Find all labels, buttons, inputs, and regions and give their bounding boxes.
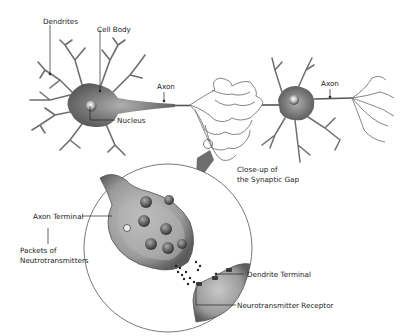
right-axon-terminals bbox=[352, 76, 394, 142]
axon-terminal-branches bbox=[190, 78, 263, 160]
label-dendrites: Dendrites bbox=[43, 17, 78, 26]
label-packets-line2: Neutrotransmitters bbox=[20, 256, 89, 265]
label-dendrite-terminal: Dendrite Terminal bbox=[247, 270, 311, 279]
label-nucleus: Nucleus bbox=[117, 116, 146, 125]
right-axon bbox=[314, 98, 352, 99]
label-closeup-line1: Close-up of bbox=[237, 165, 278, 174]
label-receptor: Neurotransmitter Receptor bbox=[237, 301, 334, 310]
label-axon-right: Axon bbox=[321, 79, 339, 88]
right-nucleus bbox=[289, 95, 299, 105]
left-nucleus bbox=[86, 101, 97, 112]
label-axon-left: Axon bbox=[157, 82, 175, 91]
label-closeup-line2: the Synaptic Gap bbox=[237, 175, 299, 184]
label-axon-terminal: Axon Terminal bbox=[33, 212, 84, 221]
label-cell-body: Cell Body bbox=[97, 25, 131, 34]
label-packets-line1: Packets of bbox=[20, 246, 56, 255]
neuron-diagram bbox=[0, 0, 403, 336]
